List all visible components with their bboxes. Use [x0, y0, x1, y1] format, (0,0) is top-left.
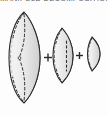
plus-operator-1 — [44, 54, 52, 62]
lens-solid-large — [9, 12, 40, 103]
geometry-diagram — [0, 0, 108, 115]
figure-root: MANIFOLD DECOMPOSITION — [0, 0, 108, 115]
plus-operator-2 — [76, 52, 83, 59]
lens-medium-highlight — [55, 45, 56, 67]
lens-large-node — [18, 57, 21, 60]
lens-solid-medium — [53, 28, 73, 83]
lens-solid-small — [88, 37, 101, 71]
